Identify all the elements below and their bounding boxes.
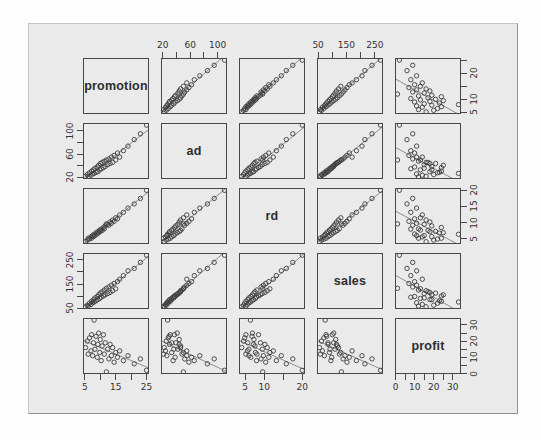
right-axis-tick-profit <box>461 333 467 334</box>
left-axis-label-ad-20: 20 <box>66 172 75 183</box>
left-axis-tick-sales <box>77 271 83 272</box>
panel-rd-vs-ad <box>161 188 227 244</box>
bottom-axis-tick-promotion <box>146 374 147 380</box>
bottom-axis-label-rd-10: 10 <box>258 383 269 392</box>
data-point <box>198 269 202 273</box>
panel-ad-vs-profit <box>395 123 461 179</box>
bottom-axis-tick-profit <box>395 374 396 380</box>
data-point <box>185 213 189 217</box>
bottom-axis-label-promotion-15: 15 <box>110 383 121 392</box>
data-point <box>354 149 358 153</box>
data-point <box>370 357 374 361</box>
right-axis-tick-rd <box>461 222 467 223</box>
right-axis-tick-promotion <box>461 60 467 61</box>
left-axis-tick-ad <box>77 154 83 155</box>
left-axis-tick-sales <box>77 296 83 297</box>
panel-sales-vs-rd <box>239 253 305 309</box>
right-axis-label-rd-15: 15 <box>470 201 479 212</box>
data-point <box>350 349 354 353</box>
right-axis-label-rd-20: 20 <box>470 185 479 196</box>
data-point <box>291 132 295 136</box>
right-axis-tick-profit <box>461 349 467 350</box>
data-point <box>97 331 101 335</box>
data-point <box>412 83 416 87</box>
data-point <box>115 355 119 359</box>
data-point <box>430 93 434 97</box>
left-axis-tick-ad <box>77 130 83 131</box>
data-point <box>261 354 265 358</box>
diagonal-panel-promotion: promotion <box>83 58 149 114</box>
data-point <box>424 87 428 91</box>
data-point <box>126 269 130 273</box>
data-point <box>354 358 358 362</box>
data-point <box>192 358 196 362</box>
data-point <box>439 95 443 99</box>
top-axis-label-ad-20: 20 <box>157 41 168 50</box>
left-axis-label-sales-250: 250 <box>66 251 75 268</box>
bottom-axis-tick-rd <box>264 374 265 380</box>
panel-ad-vs-promotion <box>83 123 149 179</box>
left-axis-tick-ad <box>77 177 83 178</box>
bottom-axis-tick-promotion <box>131 374 132 380</box>
data-point <box>109 354 113 358</box>
diagonal-panel-sales: sales <box>317 253 383 309</box>
variable-label-profit: profit <box>411 339 444 353</box>
panel-rd-vs-sales <box>317 188 383 244</box>
bottom-axis-tick-profit <box>424 374 425 380</box>
right-axis-label-profit-10: 10 <box>470 352 479 363</box>
data-point <box>418 168 422 172</box>
bottom-axis-label-profit-10: 10 <box>409 383 420 392</box>
panel-profit-vs-sales <box>317 318 383 374</box>
data-point <box>121 358 125 362</box>
panel-rd-vs-promotion <box>83 188 149 244</box>
variable-label-ad: ad <box>187 144 202 158</box>
panel-sales-vs-ad <box>161 253 227 309</box>
bottom-axis-tick-promotion <box>84 374 85 380</box>
panel-border <box>84 319 149 374</box>
data-point <box>409 167 413 171</box>
data-point <box>350 155 354 159</box>
top-axis-tick-sales <box>360 52 361 58</box>
data-point <box>430 234 434 238</box>
data-point <box>411 63 415 67</box>
data-point <box>284 362 288 366</box>
data-point <box>256 333 260 337</box>
data-point <box>99 358 103 362</box>
data-point <box>138 357 142 361</box>
data-point <box>212 357 216 361</box>
right-axis-tick-promotion <box>461 86 467 87</box>
panel-ad-vs-sales <box>317 123 383 179</box>
top-axis-label-sales-50: 50 <box>312 41 323 50</box>
data-point <box>192 78 196 82</box>
right-axis-label-promotion-10: 10 <box>470 94 479 105</box>
data-point <box>187 360 191 364</box>
panel-sales-vs-profit <box>395 253 461 309</box>
bottom-axis-tick-rd <box>283 374 284 380</box>
left-axis-tick-sales <box>77 259 83 260</box>
right-axis-tick-promotion <box>461 99 467 100</box>
left-axis-label-ad-100: 100 <box>66 122 75 139</box>
fit-line <box>317 127 383 179</box>
data-point <box>347 355 351 359</box>
data-point <box>409 149 413 153</box>
right-axis-tick-profit <box>461 373 467 374</box>
data-point <box>98 337 102 341</box>
data-point <box>254 358 258 362</box>
right-axis-tick-rd <box>461 190 467 191</box>
top-axis-label-sales-250: 250 <box>366 41 383 50</box>
top-axis-tick-ad <box>203 52 204 58</box>
variable-label-sales: sales <box>334 274 366 288</box>
bottom-axis-tick-rd <box>245 374 246 380</box>
data-point <box>412 279 416 283</box>
data-point <box>110 345 114 349</box>
data-point <box>114 158 118 162</box>
data-point <box>414 206 418 210</box>
bottom-axis-tick-profit <box>414 374 415 380</box>
data-point <box>93 347 97 351</box>
bottom-axis-label-rd-20: 20 <box>297 383 308 392</box>
pairs-plot-figure: promotionadrdsalesprofit5152520601005102… <box>28 23 518 414</box>
data-point <box>171 358 175 362</box>
diagonal-panel-rd: rd <box>239 188 305 244</box>
data-point <box>439 225 443 229</box>
right-axis-tick-promotion <box>461 73 467 74</box>
